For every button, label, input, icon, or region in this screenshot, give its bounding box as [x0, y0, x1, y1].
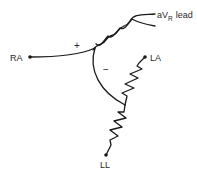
positive-wire — [30, 48, 95, 57]
positive-sign: + — [74, 40, 80, 51]
avr-lead-suffix: lead — [176, 10, 193, 20]
la-label: LA — [150, 53, 161, 63]
resistor-la — [122, 57, 145, 105]
twisted-pair-strand-a — [93, 14, 155, 50]
negative-sign: − — [103, 64, 109, 75]
avr-lead-diagram: RA LA LL + − aVRlead — [0, 0, 197, 176]
ll-label: LL — [100, 160, 110, 170]
la-node-dot — [143, 55, 147, 59]
ra-label: RA — [10, 53, 23, 63]
resistor-ll — [106, 105, 126, 155]
avr-lead-prefix: aV — [157, 10, 168, 20]
avr-lead-label: aVRlead — [157, 10, 193, 22]
negative-wire — [93, 48, 125, 105]
ll-node-dot — [104, 153, 108, 157]
avr-lead-subscript: R — [168, 15, 173, 22]
ra-node-dot — [28, 55, 32, 59]
